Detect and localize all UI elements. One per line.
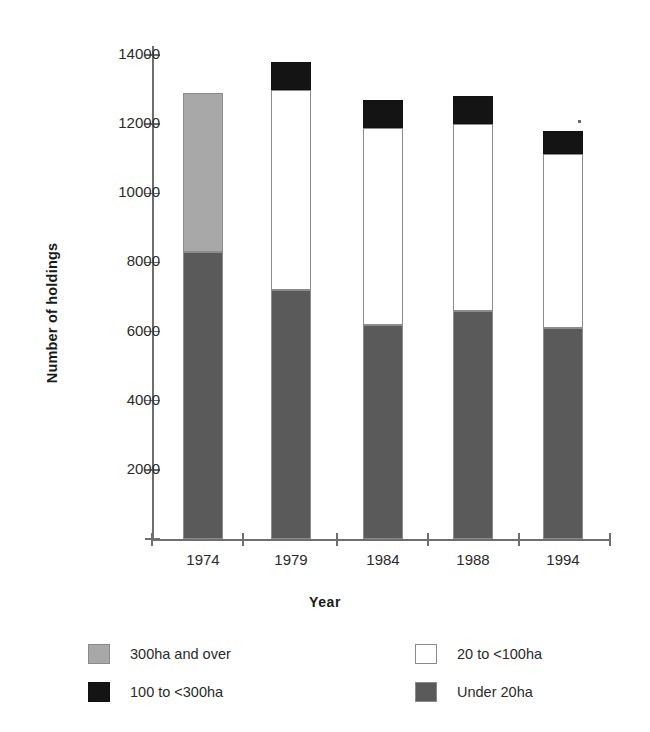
legend-item-under-20ha[interactable]: Under 20ha — [415, 682, 533, 702]
bar-segment-1988-under-20ha — [453, 311, 493, 539]
chart-legend: 300ha and over 100 to <300ha 20 to <100h… — [0, 640, 650, 732]
bar-segment-1979-20-to-100ha — [271, 90, 311, 291]
x-axis-tick — [427, 533, 429, 546]
speck-mark — [578, 120, 581, 123]
legend-swatch-under-20ha — [415, 682, 437, 702]
y-axis-tick-label: 4000 — [74, 391, 160, 408]
bar-1988 — [453, 0, 493, 600]
bar-1984 — [363, 0, 403, 600]
x-axis-tick — [242, 533, 244, 546]
bar-segment-1994-100-to-300ha — [543, 131, 583, 153]
bar-segment-1994-under-20ha — [543, 328, 583, 539]
bar-segment-1974-300ha-and-over — [183, 93, 223, 252]
x-axis-tick — [151, 533, 153, 546]
plot-area: Number of holdings 200040006000800010000… — [0, 0, 650, 600]
legend-label-100-to-300ha: 100 to <300ha — [130, 684, 223, 700]
legend-label-under-20ha: Under 20ha — [457, 684, 533, 700]
bar-1974 — [183, 0, 223, 600]
x-axis-tick — [336, 533, 338, 546]
y-axis-tick-label: 12000 — [74, 114, 160, 131]
bar-1994 — [543, 0, 583, 600]
bar-segment-1984-under-20ha — [363, 325, 403, 539]
bar-segment-1974-under-20ha — [183, 252, 223, 539]
bar-segment-1994-20-to-100ha — [543, 154, 583, 329]
legend-label-20-to-100ha: 20 to <100ha — [457, 646, 542, 662]
x-axis-tick — [609, 533, 611, 546]
y-axis-tick-label: 2000 — [74, 460, 160, 477]
legend-item-300ha-and-over[interactable]: 300ha and over — [88, 644, 231, 664]
y-axis-tick-label: 8000 — [74, 252, 160, 269]
bar-segment-1988-20-to-100ha — [453, 124, 493, 311]
bar-segment-1984-100-to-300ha — [363, 100, 403, 128]
y-axis-tick-label: 10000 — [74, 183, 160, 200]
bar-segment-1984-20-to-100ha — [363, 128, 403, 325]
bar-segment-1988-100-to-300ha — [453, 96, 493, 124]
legend-swatch-100-to-300ha — [88, 682, 110, 702]
x-axis-title: Year — [0, 594, 650, 610]
bar-segment-1979-under-20ha — [271, 290, 311, 539]
legend-item-100-to-300ha[interactable]: 100 to <300ha — [88, 682, 223, 702]
x-axis-tick — [518, 533, 520, 546]
bar-1979 — [271, 0, 311, 600]
bar-segment-1979-100-to-300ha — [271, 62, 311, 90]
legend-item-20-to-100ha[interactable]: 20 to <100ha — [415, 644, 542, 664]
chart-page: Number of holdings 200040006000800010000… — [0, 0, 650, 732]
legend-label-300ha-and-over: 300ha and over — [130, 646, 231, 662]
y-axis-title: Number of holdings — [44, 198, 60, 428]
y-axis-tick-label: 14000 — [74, 45, 160, 62]
legend-swatch-300ha-and-over — [88, 644, 110, 664]
legend-swatch-20-to-100ha — [415, 644, 437, 664]
y-axis-tick-label: 6000 — [74, 322, 160, 339]
